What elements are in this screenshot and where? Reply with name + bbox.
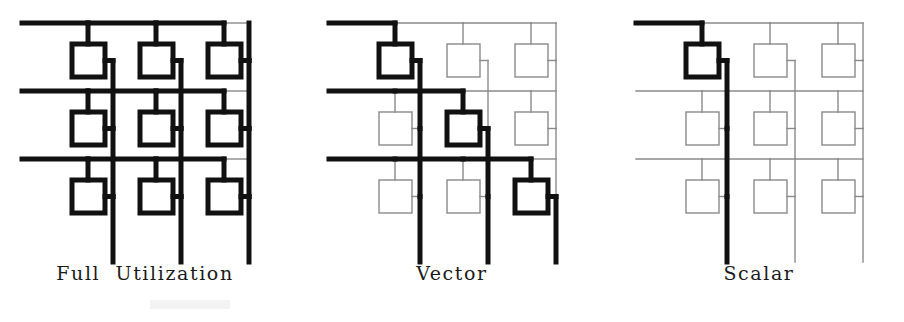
processing-element-box	[447, 44, 480, 77]
processing-element-box	[822, 180, 855, 213]
panel-caption-full-utilization: Full Utilization	[0, 262, 290, 284]
processing-element-box	[379, 44, 412, 77]
panel-full-utilization: Full Utilization	[0, 0, 290, 322]
processing-element-box	[379, 180, 412, 213]
panel-diagram-full-utilization	[0, 0, 290, 270]
processing-element-box	[72, 180, 105, 213]
processing-element-box	[72, 44, 105, 77]
processing-element-box	[686, 180, 719, 213]
utilization-figure: Full UtilizationVectorScalar	[0, 0, 904, 322]
panel-caption-scalar: Scalar	[614, 262, 904, 284]
processing-element-box	[208, 112, 241, 145]
processing-element-box	[140, 44, 173, 77]
processing-element-box	[208, 180, 241, 213]
processing-element-box	[822, 44, 855, 77]
processing-element-box	[515, 180, 548, 213]
processing-element-box	[515, 44, 548, 77]
panel-diagram-vector	[307, 0, 597, 270]
processing-element-box	[686, 44, 719, 77]
panel-scalar: Scalar	[614, 0, 904, 322]
processing-element-box	[686, 112, 719, 145]
processing-element-box	[754, 112, 787, 145]
paper-artifact	[150, 300, 230, 309]
processing-element-box	[140, 112, 173, 145]
processing-element-box	[72, 112, 105, 145]
panel-vector: Vector	[307, 0, 597, 322]
processing-element-box	[447, 112, 480, 145]
panel-diagram-scalar	[614, 0, 904, 270]
processing-element-box	[379, 112, 412, 145]
processing-element-box	[754, 44, 787, 77]
processing-element-box	[140, 180, 173, 213]
processing-element-box	[447, 180, 480, 213]
processing-element-box	[515, 112, 548, 145]
panel-caption-vector: Vector	[307, 262, 597, 284]
processing-element-box	[208, 44, 241, 77]
processing-element-box	[822, 112, 855, 145]
processing-element-box	[754, 180, 787, 213]
